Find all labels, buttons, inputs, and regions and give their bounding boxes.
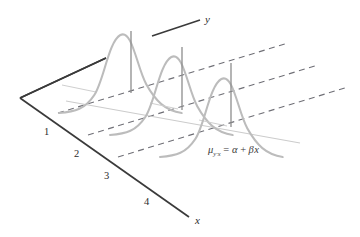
x-tick-label-4: 4 [144,196,150,207]
regression-distribution-diagram: y x 1 2 3 4 μy·x=α+βx [0,0,360,237]
x-tick-label-2: 2 [74,148,79,159]
y-axis-segment-right [152,20,200,36]
distribution-curve-3 [160,63,283,157]
dashed-baseline-2 [88,65,318,135]
y-axis-label: y [204,13,210,25]
x-axis-label: x [194,214,200,226]
formula-equals: = [223,144,229,155]
curve-3-bell [160,78,283,157]
y-axis-group [20,20,200,98]
curve-1-bell [59,34,182,113]
x-tick-label-3: 3 [104,170,109,181]
curve-1-base-connector [62,85,96,92]
y-axis-segment-left [20,58,106,98]
formula-alpha: α [232,144,238,155]
formula-subscript: y·x [212,150,221,157]
formula-plus: + [240,144,246,155]
dashed-baseline-1 [58,43,288,113]
formula-line: μy·x=α+βx [207,144,259,157]
formula-x: x [253,144,259,155]
x-tick-label-1: 1 [44,126,49,137]
curve-2-base-connector [150,103,178,109]
regression-formula: μy·x=α+βx [207,144,259,157]
figure-container: y x 1 2 3 4 μy·x=α+βx [0,0,360,237]
